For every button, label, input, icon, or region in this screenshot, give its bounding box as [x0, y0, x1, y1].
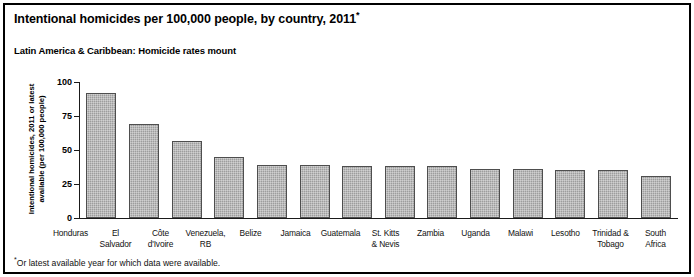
bar[interactable]	[555, 170, 585, 218]
bar-slot	[336, 82, 379, 218]
x-axis-category-label-line: St. Kitts	[363, 228, 408, 239]
bar-slot	[251, 82, 294, 218]
x-axis-category-label: Uganda	[453, 228, 498, 249]
bar-slot	[634, 82, 677, 218]
x-axis-category-label: Guatemala	[318, 228, 363, 249]
bar-slot	[592, 82, 635, 218]
x-axis-category-label: Honduras	[48, 228, 93, 249]
y-axis-tick-label: 100	[46, 77, 72, 87]
x-axis-category-label-line: Jamaica	[273, 228, 318, 239]
chart-figure: Intentional homicides per 100,000 people…	[0, 0, 694, 277]
y-axis-tick-label: 75	[46, 111, 72, 121]
x-axis-category-label: Côted'Ivoire	[138, 228, 183, 249]
bar-slot	[123, 82, 166, 218]
y-axis-tick-label: 0	[46, 213, 72, 223]
bar[interactable]	[86, 93, 116, 218]
x-axis-category-label-line: Malawi	[498, 228, 543, 239]
bar[interactable]	[129, 124, 159, 218]
x-axis-category-label: Zambia	[408, 228, 453, 249]
x-axis-category-label-line: Guatemala	[318, 228, 363, 239]
x-axis-category-label-line: Venezuela,	[183, 228, 228, 239]
bar-slot	[80, 82, 123, 218]
y-axis-tick-mark	[74, 82, 79, 83]
x-axis-category-label-line: Trinidad &	[588, 228, 633, 239]
x-axis-category-label-line: Tobago	[588, 239, 633, 250]
bar-series	[80, 82, 677, 218]
x-axis-category-label-line: Uganda	[453, 228, 498, 239]
bar[interactable]	[214, 157, 244, 218]
x-axis-category-label: ElSalvador	[93, 228, 138, 249]
x-axis-category-label-line: South	[633, 228, 678, 239]
bar[interactable]	[641, 176, 671, 218]
footnote-text: Or latest available year for which data …	[17, 258, 221, 268]
x-axis-category-label-line: RB	[183, 239, 228, 250]
chart-subtitle: Latin America & Caribbean: Homicide rate…	[14, 45, 236, 56]
x-axis-category-label: SouthAfrica	[633, 228, 678, 249]
y-axis-tick-mark	[74, 150, 79, 151]
bar-slot	[506, 82, 549, 218]
x-axis-category-label-line: Salvador	[93, 239, 138, 250]
bar[interactable]	[172, 141, 202, 218]
bar[interactable]	[470, 169, 500, 218]
x-axis-category-label: St. Kitts& Nevis	[363, 228, 408, 249]
y-axis-tick-mark	[74, 184, 79, 185]
x-axis-category-label-line: Lesotho	[543, 228, 588, 239]
y-axis-tick-label: 25	[46, 179, 72, 189]
x-axis-category-label: Trinidad &Tobago	[588, 228, 633, 249]
y-axis-label-line-1: Intentional homicides, 2011 or latest	[27, 84, 37, 214]
x-axis-labels: HondurasElSalvadorCôted'IvoireVenezuela,…	[48, 228, 678, 249]
x-axis-category-label-line: & Nevis	[363, 239, 408, 250]
bar-slot	[293, 82, 336, 218]
title-footnote-marker: *	[356, 10, 359, 20]
plot-area: Intentional homicides, 2011 or latest av…	[14, 76, 678, 226]
chart-footnote: *Or latest available year for which data…	[14, 258, 220, 268]
chart-title-text: Intentional homicides per 100,000 people…	[14, 12, 356, 26]
y-axis-tick-mark	[74, 116, 79, 117]
x-axis-category-label: Malawi	[498, 228, 543, 249]
x-axis-category-label-line: Africa	[633, 239, 678, 250]
x-axis-category-label-line: d'Ivoire	[138, 239, 183, 250]
chart-title: Intentional homicides per 100,000 people…	[14, 12, 359, 26]
bar-slot	[208, 82, 251, 218]
bar-slot	[165, 82, 208, 218]
bar-slot	[464, 82, 507, 218]
bar[interactable]	[427, 166, 457, 218]
x-axis-category-label-line: Côte	[138, 228, 183, 239]
x-axis-category-label: Jamaica	[273, 228, 318, 249]
x-axis-category-label-line: Belize	[228, 228, 273, 239]
x-axis-category-label-line: El	[93, 228, 138, 239]
bar[interactable]	[342, 166, 372, 218]
x-axis-category-label: Belize	[228, 228, 273, 249]
bar[interactable]	[300, 165, 330, 218]
bar-slot	[549, 82, 592, 218]
bar-slot	[421, 82, 464, 218]
bar-slot	[378, 82, 421, 218]
x-axis-category-label-line: Honduras	[48, 228, 93, 239]
axis-area: 0255075100	[46, 76, 678, 224]
bar[interactable]	[598, 170, 628, 218]
y-axis-tick-label: 50	[46, 145, 72, 155]
x-axis-category-label: Lesotho	[543, 228, 588, 249]
bar[interactable]	[257, 165, 287, 218]
x-axis-baseline	[79, 218, 678, 219]
bar[interactable]	[385, 166, 415, 218]
bar[interactable]	[513, 169, 543, 218]
x-axis-category-label: Venezuela,RB	[183, 228, 228, 249]
x-axis-category-label-line: Zambia	[408, 228, 453, 239]
